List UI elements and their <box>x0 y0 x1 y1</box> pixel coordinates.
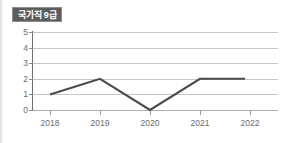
chart-page: 국가직 9급 5 4 3 2 1 0 <box>0 0 287 143</box>
series-layer <box>0 0 287 143</box>
line-chart: 5 4 3 2 1 0 2018 2019 2020 2021 2022 <box>0 0 287 143</box>
series-line-national-grade9 <box>50 79 245 110</box>
